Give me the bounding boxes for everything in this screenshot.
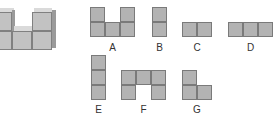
- net-square: [91, 70, 106, 85]
- net-square: [152, 7, 167, 22]
- net-square: [182, 85, 197, 100]
- net-square: [121, 70, 136, 85]
- net-square: [90, 7, 105, 22]
- net-square: [243, 22, 258, 37]
- net-square: [120, 7, 135, 22]
- option-label-d: D: [241, 42, 261, 53]
- net-square: [120, 22, 135, 37]
- option-label-b: B: [150, 42, 170, 53]
- option-label-f: F: [134, 104, 154, 115]
- net-square: [228, 22, 243, 37]
- net-square: [258, 22, 273, 37]
- net-square: [197, 22, 212, 37]
- net-square: [197, 85, 212, 100]
- net-square: [136, 70, 151, 85]
- net-square: [91, 55, 106, 70]
- option-label-a: A: [103, 42, 123, 53]
- net-square: [90, 22, 105, 37]
- net-square: [151, 70, 166, 85]
- option-label-g: G: [187, 104, 207, 115]
- net-square: [152, 22, 167, 37]
- net-square: [121, 85, 136, 100]
- net-square: [182, 22, 197, 37]
- net-square: [182, 70, 197, 85]
- option-label-e: E: [89, 104, 109, 115]
- net-square: [151, 85, 166, 100]
- net-square: [91, 85, 106, 100]
- net-square: [105, 22, 120, 37]
- option-label-c: C: [187, 42, 207, 53]
